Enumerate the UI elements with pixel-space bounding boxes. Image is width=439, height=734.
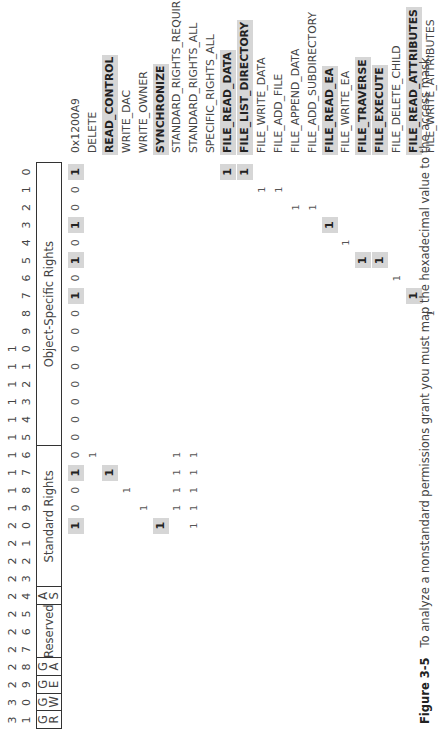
bit-value: 1 [170, 466, 184, 480]
bit-digit-units: 5 [21, 253, 33, 267]
bit-value: 0 [69, 359, 83, 373]
bit-digit-units: 6 [21, 448, 33, 462]
bit-value: 1 [102, 465, 118, 481]
row-label: FILE_READ_EA [322, 66, 338, 155]
bit-value: 1 [153, 518, 169, 534]
bit-value: 1 [86, 448, 100, 462]
bit-value: 1 [120, 483, 134, 497]
bit-digit-units: 8 [21, 306, 33, 320]
bit-value: 1 [220, 164, 236, 180]
field-label: G E [38, 680, 60, 689]
bit-digit-tens: 1 [7, 501, 19, 515]
row-label: SPECIFIC_RIGHTS_ALL [203, 32, 219, 155]
bit-digit-units: 9 [21, 501, 33, 515]
bit-digit-units: 9 [21, 678, 33, 692]
row-label: FILE_WRITE_DATA [254, 55, 270, 155]
row-label: SYNCHRONIZE [153, 64, 169, 155]
bit-value: 0 [69, 306, 83, 320]
bit-digit-tens: 2 [7, 536, 19, 550]
row-label: WRITE_DAC [119, 88, 135, 155]
row-label: DELETE [85, 110, 101, 155]
bit-digit-units: 9 [21, 324, 33, 338]
row-label: FILE_ADD_SUBDIRECTORY [305, 10, 321, 155]
bit-value: 1 [187, 519, 201, 533]
field-label: G R [38, 715, 60, 724]
bit-value: 0 [69, 342, 83, 356]
bit-digit-units: 7 [21, 642, 33, 656]
row-label: FILE_ADD_FILE [271, 72, 287, 155]
bit-value: 1 [187, 501, 201, 515]
bit-value: 0 [69, 324, 83, 338]
field-a-s: A S [36, 587, 62, 606]
bit-value: 1 [372, 252, 388, 268]
bit-digit-units: 1 [21, 536, 33, 550]
bit-value: 1 [339, 236, 353, 250]
bit-value: 1 [68, 465, 84, 481]
bit-digit-tens: 2 [7, 660, 19, 674]
bit-digit-units: 7 [21, 289, 33, 303]
row-label: STANDARD_RIGHTS_ALL [186, 21, 202, 155]
field-g-a: G A [36, 657, 62, 676]
bit-digit-units: 3 [21, 218, 33, 232]
field-g-r: G R [36, 710, 62, 729]
bit-value: 0 [69, 200, 83, 214]
row-label: READ_CONTROL [102, 55, 118, 155]
bit-digit-tens: 2 [7, 607, 19, 621]
bit-value: 1 [68, 164, 84, 180]
bit-value: 1 [187, 448, 201, 462]
bit-value: 0 [69, 271, 83, 285]
bit-digit-tens: 1 [7, 466, 19, 480]
bit-digit-tens: 1 [7, 377, 19, 391]
bit-value: 1 [68, 252, 84, 268]
bit-value: 1 [68, 288, 84, 304]
bit-digit-tens: 1 [7, 413, 19, 427]
bit-digit-units: 4 [21, 589, 33, 603]
bit-value: 1 [187, 483, 201, 497]
bit-digit-tens: 1 [7, 430, 19, 444]
bit-digit-tens: 1 [7, 359, 19, 373]
field-standard-rights: Standard Rights [36, 445, 62, 587]
bit-digit-units: 3 [21, 572, 33, 586]
field-reserved: Reserved [36, 604, 62, 658]
bit-value: 1 [255, 183, 269, 197]
bit-value: 1 [68, 518, 84, 534]
field-label: Object-Specific Rights [44, 241, 55, 367]
bit-value: 0 [69, 395, 83, 409]
row-label: WRITE_OWNER [136, 69, 152, 155]
row-label: FILE_APPEND_DATA [288, 47, 304, 155]
bit-digit-units: 4 [21, 413, 33, 427]
bit-digit-tens: 2 [7, 554, 19, 568]
row-label: FILE_TRAVERSE [355, 57, 371, 155]
bit-value: 0 [69, 413, 83, 427]
figure-caption-text: To analyze a nonstandard permissions gra… [418, 54, 432, 648]
bit-digit-tens: 2 [7, 678, 19, 692]
bit-value: 0 [69, 183, 83, 197]
bit-digit-units: 0 [21, 165, 33, 179]
bit-value: 1 [237, 164, 253, 180]
bit-digit-units: 4 [21, 236, 33, 250]
bit-digit-tens: 1 [7, 483, 19, 497]
bit-value: 1 [390, 271, 404, 285]
figure-number: Figure 3-5 [418, 658, 432, 724]
field-label: A S [38, 592, 60, 600]
row-label: FILE_READ_DATA [220, 50, 236, 155]
bit-digit-tens: 3 [7, 713, 19, 727]
row-label: FILE_LIST_DIRECTORY [237, 20, 253, 155]
field-label: Reserved [44, 604, 55, 658]
bit-digit-units: 7 [21, 466, 33, 480]
row-label: 0x1200A9 [68, 96, 84, 155]
row-label: FILE_WRITE_EA [338, 69, 354, 155]
bit-value: 1 [68, 217, 84, 233]
field-label: G A [38, 662, 60, 671]
figure-caption: Figure 3-5To analyze a nonstandard permi… [418, 54, 432, 724]
bit-digit-tens: 2 [7, 519, 19, 533]
bit-digit-units: 0 [21, 519, 33, 533]
bit-value: 1 [306, 200, 320, 214]
bit-digit-units: 2 [21, 377, 33, 391]
bit-digit-tens: 1 [7, 448, 19, 462]
bit-digit-tens: 2 [7, 572, 19, 586]
bit-value: 1 [137, 501, 151, 515]
bit-digit-units: 8 [21, 660, 33, 674]
bit-digit-units: 3 [21, 395, 33, 409]
